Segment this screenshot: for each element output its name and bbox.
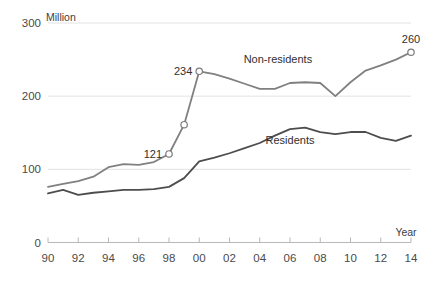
x-axis-tick-label: 96: [132, 252, 145, 264]
y-axis-unit-label: Million: [46, 11, 76, 23]
series-label: Non-residents: [244, 53, 313, 65]
x-axis-tick-label: 06: [284, 252, 297, 264]
x-axis-tick-label: 94: [102, 252, 115, 264]
x-axis-tick-label: 12: [374, 252, 387, 264]
data-point-label: 260: [402, 33, 420, 45]
x-axis-tick-label: 98: [163, 252, 176, 264]
x-axis-tick-label: 08: [314, 252, 327, 264]
line-chart: 0100200300 90929496980002040608101214 Mi…: [0, 0, 443, 283]
x-axis-tick-label: 02: [223, 252, 236, 264]
series-label: Residents: [266, 134, 315, 146]
gridlines-group: [48, 23, 411, 169]
data-point-label: 234: [174, 65, 192, 77]
series-line-residents: [48, 128, 411, 195]
y-axis-tick-labels: 0100200300: [22, 17, 41, 249]
data-point-marker: [181, 122, 187, 128]
x-axis-tick-label: 10: [344, 252, 357, 264]
x-axis-tick-label: 92: [72, 252, 85, 264]
y-axis-tick-label: 200: [22, 90, 41, 102]
x-axis-tick-marks: [48, 238, 411, 243]
x-axis-title: Year: [395, 226, 417, 238]
y-axis-tick-label: 0: [35, 237, 41, 249]
x-axis-tick-label: 14: [405, 252, 418, 264]
series-line-non-residents: [48, 52, 411, 187]
y-axis-tick-label: 100: [22, 163, 41, 175]
series-inline-labels: Non-residentsResidents: [244, 53, 315, 147]
chart-container: 0100200300 90929496980002040608101214 Mi…: [0, 0, 443, 283]
x-axis-tick-label: 90: [42, 252, 55, 264]
y-axis-tick-label: 300: [22, 17, 41, 29]
data-point-marker: [166, 151, 172, 157]
x-axis-tick-label: 00: [193, 252, 206, 264]
x-axis-tick-label: 04: [253, 252, 266, 264]
data-point-marker: [408, 49, 414, 55]
data-point-marker: [196, 68, 202, 74]
data-point-label: 121: [144, 148, 162, 160]
x-axis-tick-labels: 90929496980002040608101214: [42, 252, 418, 264]
